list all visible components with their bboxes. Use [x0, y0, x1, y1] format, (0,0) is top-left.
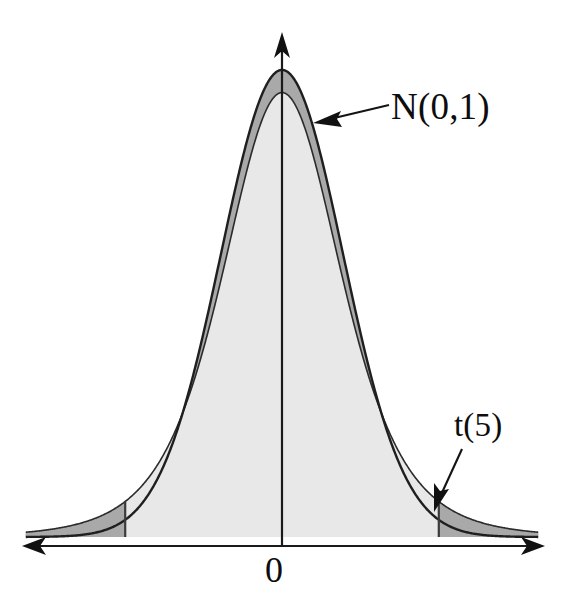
- x-axis-origin-tick-label: 0: [265, 552, 283, 588]
- normal-distribution-label: N(0,1): [391, 88, 490, 125]
- t-label-leader-arrow: [434, 449, 462, 512]
- normal-label-leader-arrow: [313, 105, 389, 127]
- distribution-comparison-figure: N(0,1) t(5) 0: [0, 0, 564, 606]
- t-distribution-label: t(5): [454, 409, 502, 442]
